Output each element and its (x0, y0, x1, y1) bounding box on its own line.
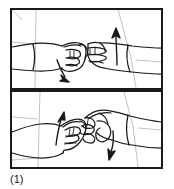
figure-caption: (1) (10, 173, 23, 185)
paper-background (0, 0, 174, 189)
illustration-canvas: (1) (0, 0, 174, 189)
figure-illustration: (1) (0, 0, 174, 189)
